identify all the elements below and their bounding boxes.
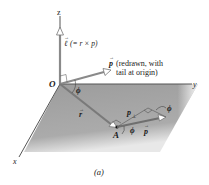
origin-label: O — [49, 79, 56, 89]
l-expression: (= r × p) — [70, 39, 98, 48]
l-vector-arrowhead — [57, 27, 64, 35]
l-arrow-mark: → — [64, 35, 69, 40]
y-axis-label: y — [192, 80, 197, 89]
p-redrawn-note-2: tail at origin) — [116, 68, 158, 77]
x-axis-label: x — [12, 157, 17, 166]
r-arrow-mark: → — [79, 107, 84, 112]
p-arrow-mark: → — [144, 123, 149, 128]
point-a-label: A — [112, 130, 119, 140]
figure-caption: (a) — [94, 167, 104, 177]
p-redrawn-note-1: (redrawn, with — [116, 59, 163, 68]
p-perp-label: p — [126, 108, 131, 117]
p-perp-sub: ⊥ — [132, 114, 136, 119]
p-label: p — [143, 127, 148, 136]
p-redrawn-arrowhead — [103, 69, 111, 76]
l-symbol: ℓ — [64, 39, 68, 48]
phi-label-a: ϕ — [130, 126, 135, 135]
p-redrawn-symbol: p — [108, 59, 113, 68]
p-redrawn-arrow-mark: → — [109, 55, 114, 60]
z-axis-label: z — [57, 8, 61, 17]
phi-label-tip: ϕ — [167, 104, 172, 113]
phi-label-origin: ϕ — [76, 86, 81, 95]
angular-momentum-diagram: z y x O ℓ → (= r × p) p → (redrawn, with… — [0, 0, 209, 185]
